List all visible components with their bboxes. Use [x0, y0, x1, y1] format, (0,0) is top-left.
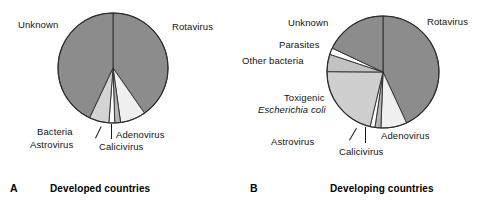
slice-label-adenovirus-a: Adenovirus [116, 129, 165, 140]
panel-caption-a: Developed countries [50, 183, 150, 194]
slice-label-calicivirus-b: Calicivirus [339, 146, 383, 157]
slice-label-ecoli-b: Escherichia coli [258, 104, 326, 115]
slice-label-astrovirus-b: Astrovirus [271, 136, 314, 147]
slice-label-rotavirus-a: Rotavirus [172, 21, 213, 32]
slice-label-other-bacteria-b: Other bacteria [242, 55, 304, 66]
slice-label-bacteria-a: Bacteria [37, 126, 73, 137]
panel-caption-b: Developing countries [330, 183, 434, 194]
slice-label-rotavirus-b: Rotavirus [427, 16, 468, 27]
panel-letter-a: A [10, 182, 18, 194]
leader-line-calicivirus-b [365, 127, 366, 143]
slice-label-parasites-b: Parasites [279, 39, 320, 50]
slice-label-adenovirus-b: Adenovirus [381, 130, 430, 141]
slice-label-unknown-b: Unknown [288, 17, 328, 28]
slice-label-astrovirus-a: Astrovirus [30, 139, 73, 150]
slice-label-unknown-a: Unknown [18, 19, 58, 30]
slice-label-toxigenic-b: Toxigenic [284, 92, 325, 103]
figure-pie-charts: Unknown Rotavirus Bacteria Astrovirus Ca… [0, 0, 481, 210]
panel-letter-b: B [250, 182, 258, 194]
slice-label-calicivirus-a: Calicivirus [99, 141, 143, 152]
panel-developed-countries: Unknown Rotavirus Bacteria Astrovirus Ca… [0, 0, 240, 210]
panel-developing-countries: Unknown Parasites Other bacteria Rotavir… [241, 0, 481, 210]
leader-line-calicivirus-a [111, 124, 112, 139]
